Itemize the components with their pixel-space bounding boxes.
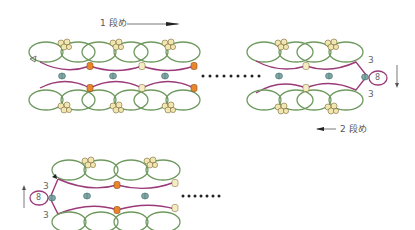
count-bottom-upper: 3 xyxy=(43,182,49,191)
row1-left-segment xyxy=(29,39,200,113)
count-top-lower: 3 xyxy=(368,90,374,99)
continuation-dots-bottom xyxy=(182,195,221,198)
count-top-upper: 3 xyxy=(368,56,374,65)
continuation-dots-top xyxy=(202,75,261,78)
count-top-ring: 8 xyxy=(375,74,380,82)
row2-label: 2 段め xyxy=(340,125,367,134)
tatting-diagram xyxy=(0,0,415,230)
count-bottom-ring: 8 xyxy=(36,194,41,202)
row1-label: 1 段め xyxy=(100,19,127,28)
count-bottom-lower: 3 xyxy=(43,211,49,220)
